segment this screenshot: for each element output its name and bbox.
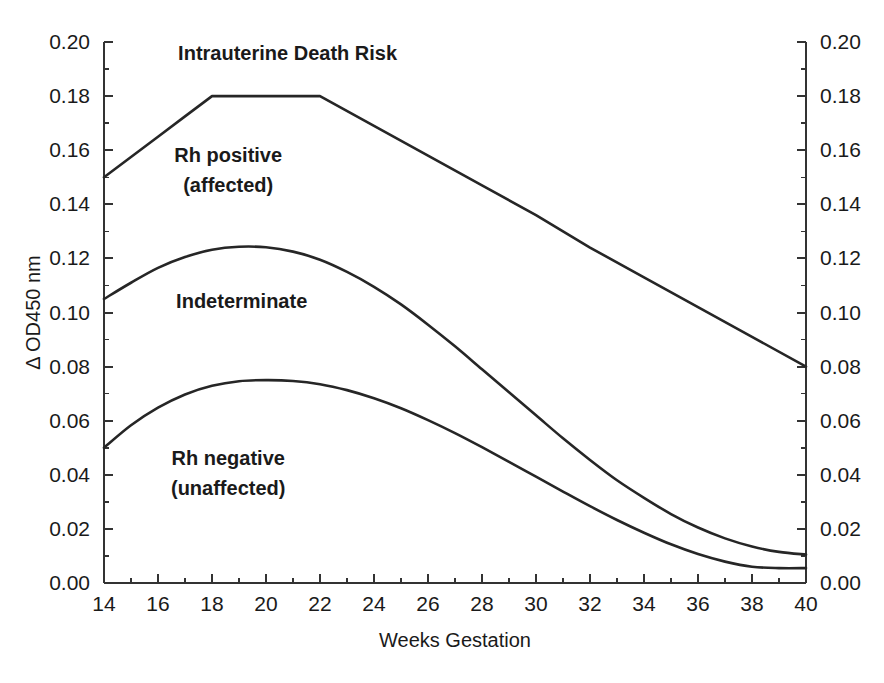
y-tick-label-left: 0.20 <box>49 30 90 53</box>
x-tick-label: 38 <box>740 592 763 615</box>
y-axis-title: Δ OD450 nm <box>22 255 44 370</box>
zone-label: (unaffected) <box>171 477 285 499</box>
chart-axes <box>104 42 806 583</box>
x-tick-label: 30 <box>524 592 547 615</box>
x-tick-label: 40 <box>794 592 817 615</box>
x-tick-label: 14 <box>92 592 116 615</box>
liley-chart: 0.000.020.040.060.080.100.120.140.160.18… <box>0 0 884 683</box>
zone-label: Indeterminate <box>176 290 307 312</box>
series-upper-zone-boundary <box>104 96 806 367</box>
y-tick-label-left: 0.12 <box>49 246 90 269</box>
x-tick-label: 24 <box>362 592 386 615</box>
y-tick-label-right: 0.02 <box>820 517 861 540</box>
x-tick-label: 28 <box>470 592 493 615</box>
y-tick-label-left: 0.06 <box>49 409 90 432</box>
y-tick-label-left: 0.16 <box>49 138 90 161</box>
y-tick-label-left: 0.02 <box>49 517 90 540</box>
y-tick-label-left: 0.10 <box>49 301 90 324</box>
x-tick-label: 22 <box>308 592 331 615</box>
y-tick-label-right: 0.14 <box>820 192 861 215</box>
zone-label: Intrauterine Death Risk <box>178 42 398 64</box>
zone-label: Rh positive <box>174 144 282 166</box>
y-tick-label-right: 0.16 <box>820 138 861 161</box>
x-tick-label: 36 <box>686 592 709 615</box>
y-tick-label-right: 0.08 <box>820 355 861 378</box>
zone-label: Rh negative <box>172 447 285 469</box>
x-tick-label: 34 <box>632 592 656 615</box>
y-tick-label-left: 0.00 <box>49 571 90 594</box>
x-tick-label: 20 <box>254 592 277 615</box>
y-tick-label-right: 0.12 <box>820 246 861 269</box>
y-tick-label-right: 0.04 <box>820 463 861 486</box>
y-tick-label-left: 0.04 <box>49 463 90 486</box>
y-tick-label-right: 0.06 <box>820 409 861 432</box>
y-tick-label-left: 0.14 <box>49 192 90 215</box>
zone-label: (affected) <box>183 174 273 196</box>
x-tick-label: 26 <box>416 592 439 615</box>
x-tick-label: 32 <box>578 592 601 615</box>
chart-ticks <box>104 42 806 583</box>
y-tick-label-left: 0.18 <box>49 84 90 107</box>
x-axis-title: Weeks Gestation <box>379 629 531 651</box>
y-tick-label-right: 0.18 <box>820 84 861 107</box>
y-tick-label-right: 0.10 <box>820 301 861 324</box>
chart-tick-labels: 0.000.020.040.060.080.100.120.140.160.18… <box>49 30 861 615</box>
y-tick-label-right: 0.00 <box>820 571 861 594</box>
series-lower-zone-boundary <box>104 380 806 568</box>
x-tick-label: 16 <box>146 592 169 615</box>
y-tick-label-right: 0.20 <box>820 30 861 53</box>
x-tick-label: 18 <box>200 592 223 615</box>
chart-canvas: 0.000.020.040.060.080.100.120.140.160.18… <box>0 0 884 683</box>
chart-zone-labels: Intrauterine Death RiskRh positive(affec… <box>171 42 398 500</box>
y-tick-label-left: 0.08 <box>49 355 90 378</box>
